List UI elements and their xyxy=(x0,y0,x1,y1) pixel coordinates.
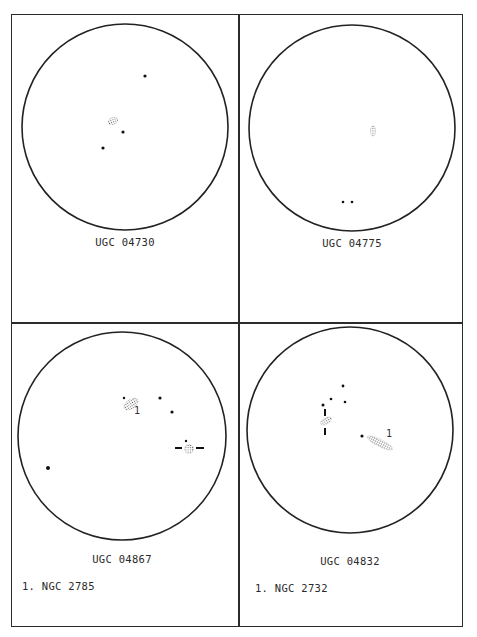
star-icon xyxy=(123,397,125,399)
field-circle xyxy=(22,24,228,230)
star-icon xyxy=(143,74,146,77)
star-icon xyxy=(344,401,347,404)
panel-title: UGC 04775 xyxy=(322,237,382,249)
object-number-label: 1 xyxy=(134,405,140,416)
star-icon xyxy=(322,404,325,407)
star-icon xyxy=(351,201,354,204)
object-number-label: 1 xyxy=(386,428,392,439)
star-icon xyxy=(170,410,173,413)
galaxy-icon xyxy=(185,445,194,454)
star-icon xyxy=(342,385,345,388)
panel-footnote: 1. NGC 2732 xyxy=(255,582,328,594)
panel-footnote: 1. NGC 2785 xyxy=(22,580,95,592)
galaxy-icon xyxy=(107,116,119,126)
star-icon xyxy=(46,466,50,470)
panel-ugc-04832: 1 xyxy=(247,327,453,533)
panel-ugc-04730 xyxy=(22,24,228,230)
panel-ugc-04867: 1 xyxy=(18,332,226,540)
star-icon xyxy=(185,440,187,442)
field-circle xyxy=(249,25,455,231)
star-icon xyxy=(101,146,104,149)
panel-title: UGC 04867 xyxy=(92,553,152,565)
star-icon xyxy=(360,434,363,437)
star-icon xyxy=(158,396,161,399)
panel-ugc-04775 xyxy=(249,25,455,231)
panel-title: UGC 04832 xyxy=(320,555,380,567)
star-icon xyxy=(330,398,333,401)
field-circle xyxy=(18,332,226,540)
galaxy-icon xyxy=(319,415,332,426)
finding-charts: 11 xyxy=(0,0,477,637)
star-icon xyxy=(121,130,124,133)
field-circle xyxy=(247,327,453,533)
panel-title: UGC 04730 xyxy=(95,236,155,248)
star-icon xyxy=(342,201,345,204)
galaxy-icon xyxy=(371,126,376,136)
